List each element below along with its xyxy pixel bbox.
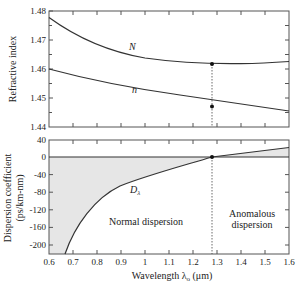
tick-label: -200 [30, 240, 47, 250]
top-plot-frame [49, 11, 289, 127]
tick-label: 0 [42, 152, 47, 162]
curve-n [49, 69, 289, 111]
tick-label: 1.47 [30, 35, 46, 45]
tick-label: 1.45 [30, 93, 46, 103]
label-D-lambda: Dλ [129, 184, 140, 197]
normal-dispersion-label: Normal dispersion [109, 216, 183, 227]
tick-label: 1.1 [163, 257, 174, 267]
tick-label: 1.6 [283, 257, 295, 267]
tick-label: 1.5 [259, 257, 271, 267]
tick-label: 1.48 [30, 6, 46, 16]
tick-label: -40 [34, 170, 46, 180]
tick-label: -160 [30, 222, 47, 232]
chart-figure: 1.48 1.47 1.46 1.45 1.44 Refractive inde… [0, 0, 297, 284]
tick-label: 0.7 [67, 257, 79, 267]
tick-label: 40 [37, 135, 47, 145]
label-n: n [132, 84, 137, 95]
tick-label: 0.8 [91, 257, 103, 267]
bottom-y-axis-label-2: (ps/km-nm) [14, 174, 26, 221]
tick-label: 1.4 [235, 257, 247, 267]
top-panel: 1.48 1.47 1.46 1.45 1.44 Refractive inde… [7, 6, 289, 132]
x-axis-label: Wavelength λo (μm) [132, 270, 213, 283]
bottom-y-axis-label-1: Dispersion coefficient [2, 154, 13, 243]
tick-label: 0.9 [115, 257, 127, 267]
tick-label: -120 [30, 205, 47, 215]
bottom-y-tick-labels: 40 0 -40 -80 -120 -160 -200 [30, 135, 47, 250]
normal-dispersion-fill [49, 157, 212, 254]
marker-zero-dispersion [210, 155, 214, 159]
top-y-tick-labels: 1.48 1.47 1.46 1.45 1.44 [30, 6, 46, 132]
tick-label: 0.6 [43, 257, 55, 267]
tick-label: 1.46 [30, 64, 46, 74]
label-N: N [128, 41, 137, 52]
tick-label: -80 [34, 187, 46, 197]
anomalous-label-1: Anomalous [229, 208, 275, 219]
anomalous-label-2: dispersion [231, 219, 272, 230]
top-y-axis-label: Refractive index [7, 36, 18, 102]
marker-n [210, 105, 214, 109]
tick-label: 1.44 [30, 122, 46, 132]
top-y-ticks [49, 11, 289, 127]
bottom-panel: 40 0 -40 -80 -120 -160 -200 0.6 0.7 0.8 … [2, 135, 295, 283]
x-tick-labels: 0.6 0.7 0.8 0.9 1 1.1 1.2 1.3 1.4 1.5 1.… [43, 257, 295, 267]
marker-N [210, 62, 214, 66]
curve-N [49, 18, 289, 64]
tick-label: 1.3 [211, 257, 223, 267]
tick-label: 1 [143, 257, 148, 267]
tick-label: 1.2 [187, 257, 198, 267]
